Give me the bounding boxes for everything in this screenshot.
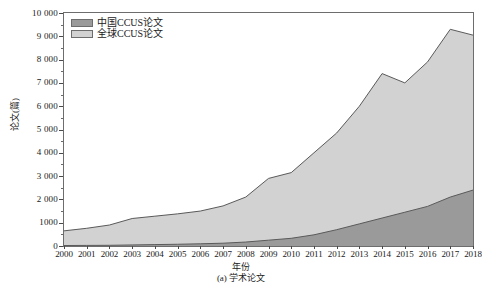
figure-caption: (a) 学术论文 — [0, 271, 482, 284]
y-tick-label: 10 000 — [0, 9, 58, 18]
x-tick-label: 2004 — [146, 249, 164, 259]
x-tick-label: 2017 — [441, 249, 459, 259]
x-tick-label: 2007 — [214, 249, 232, 259]
chart-legend: 中国CCUS论文 全球CCUS论文 — [69, 16, 165, 40]
y-tick-label: 1000 — [0, 218, 58, 227]
y-tick-label: 8 000 — [0, 55, 58, 64]
x-tick-label: 2005 — [169, 249, 187, 259]
x-tick-label: 2003 — [123, 249, 141, 259]
y-tick-label: 3 000 — [0, 172, 58, 181]
x-tick-label: 2014 — [373, 249, 391, 259]
y-axis-title: 论文(篇) — [8, 75, 21, 155]
area-chart-svg — [64, 13, 473, 246]
x-tick-label: 2016 — [419, 249, 437, 259]
legend-swatch-global — [71, 30, 93, 38]
x-tick-label: 2008 — [237, 249, 255, 259]
legend-item-global: 全球CCUS论文 — [71, 28, 163, 39]
x-tick-label: 2015 — [396, 249, 414, 259]
legend-label-china: 中国CCUS论文 — [97, 17, 163, 28]
figure-academic-papers: 010002 0003 0004 0005 0006 0007 0008 000… — [0, 0, 482, 285]
x-tick-label: 2011 — [305, 249, 322, 259]
x-tick-label: 2012 — [328, 249, 346, 259]
x-tick-label: 2013 — [351, 249, 369, 259]
legend-label-global: 全球CCUS论文 — [97, 28, 163, 39]
x-tick-label: 2002 — [101, 249, 119, 259]
y-tick-label: 9 000 — [0, 32, 58, 41]
x-tick-label: 2000 — [55, 249, 73, 259]
x-tick-label: 2001 — [78, 249, 96, 259]
y-tick-label: 0 — [0, 242, 58, 251]
x-tick-label: 2018 — [464, 249, 482, 259]
legend-item-china: 中国CCUS论文 — [71, 17, 163, 28]
x-tick-label: 2010 — [282, 249, 300, 259]
y-tick-label: 2 000 — [0, 195, 58, 204]
legend-swatch-china — [71, 19, 93, 27]
x-tick-label: 2009 — [260, 249, 278, 259]
x-tick-label: 2006 — [192, 249, 210, 259]
plot-area — [63, 12, 474, 247]
